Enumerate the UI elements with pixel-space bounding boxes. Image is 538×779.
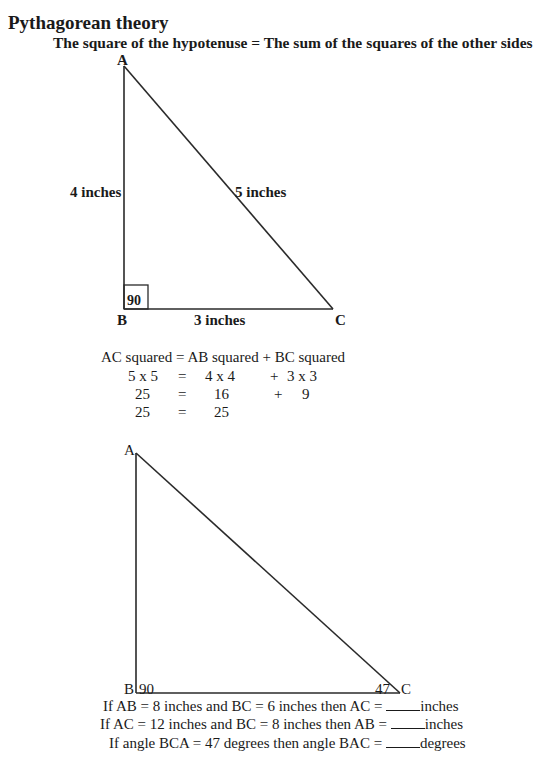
t2-angle-b-label: 90	[139, 681, 154, 698]
t1-vertex-c: C	[335, 312, 346, 329]
t2-vertex-b: B	[124, 681, 134, 698]
t1-vertex-a: A	[117, 52, 128, 69]
question-1: If AB = 8 inches and BC = 6 inches then …	[103, 698, 459, 715]
t1-vertex-b: B	[117, 312, 127, 329]
triangle-1	[124, 66, 333, 309]
t2-vertex-c: C	[401, 681, 411, 698]
t2-angle-c-label: 47	[375, 681, 390, 698]
eq-row-1: AC squared = AB squared + BC squared	[101, 349, 345, 366]
question-2: If AC = 12 inches and BC = 8 inches then…	[100, 716, 463, 733]
answer-blank-2[interactable]	[391, 716, 425, 729]
t1-side-ac-label: 5 inches	[235, 184, 286, 201]
triangle-2	[136, 453, 400, 693]
t1-side-ab-label: 4 inches	[70, 184, 121, 201]
eq-row3-lhs: 25	[135, 386, 150, 403]
answer-blank-3[interactable]	[386, 735, 420, 748]
answer-blank-1[interactable]	[386, 698, 420, 711]
t1-right-angle-label: 90	[127, 293, 141, 309]
question-3: If angle BCA = 47 degrees then angle BAC…	[109, 735, 466, 752]
t2-vertex-a: A	[124, 442, 135, 459]
t1-side-bc-label: 3 inches	[194, 312, 245, 329]
eq-row2-lhs: 5 x 5	[128, 368, 158, 385]
eq-row4-lhs: 25	[135, 404, 150, 421]
triangle-diagrams	[0, 0, 538, 779]
